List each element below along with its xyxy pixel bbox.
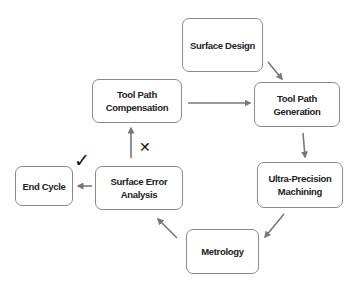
arrow-machining-to-metrology [265,214,284,237]
node-label: Ultra-Precision Machining [268,172,331,198]
node-label: Metrology [201,245,244,258]
node-label: End Cycle [22,180,65,193]
arrow-design-to-generation [268,62,282,79]
node-label: Tool Path Compensation [106,88,168,114]
node-tool-path-generation: Tool Path Generation [254,82,340,127]
node-ultra-precision-machining: Ultra-Precision Machining [257,162,343,208]
connector-layer [0,0,355,287]
node-end-cycle: End Cycle [15,166,73,206]
node-surface-error-analysis: Surface Error Analysis [95,166,183,210]
node-tool-path-compensation: Tool Path Compensation [92,79,182,123]
node-label: Tool Path Generation [273,92,320,118]
arrow-metrology-to-error-analysis [158,219,177,238]
node-label: Surface Design [190,39,255,52]
cross-icon: ✕ [139,139,151,155]
arrow-generation-to-machining [303,133,305,157]
node-metrology: Metrology [186,229,259,274]
node-surface-design: Surface Design [182,18,263,72]
node-label: Surface Error Analysis [111,175,168,201]
checkmark-icon: ✓ [74,150,90,170]
